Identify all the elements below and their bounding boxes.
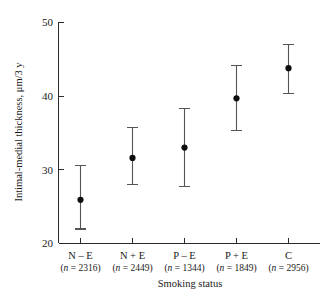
x-tick-sublabel-2: (n = 1344)	[164, 263, 204, 274]
n-value-1: = 2449)	[120, 263, 152, 274]
data-marker-3	[233, 95, 239, 101]
x-axis-title: Smoking status	[158, 278, 222, 289]
data-point-group-4	[283, 45, 294, 94]
x-tick-sublabel-1: (n = 2449)	[112, 263, 152, 274]
y-tick-label-50: 50	[42, 16, 54, 28]
n-value-0: = 2316)	[68, 263, 100, 274]
data-marker-0	[77, 197, 83, 203]
data-marker-2	[181, 145, 187, 151]
n-value-3: = 1849)	[224, 263, 256, 274]
x-tick-label-3: P + E	[225, 250, 248, 261]
chart-figure: 50 40 30 20	[0, 0, 328, 302]
y-tick-label-40: 40	[42, 90, 54, 102]
y-tick-marks	[59, 23, 65, 244]
n-value-4: = 2956)	[276, 263, 308, 274]
x-tick-label-2: P – E	[173, 250, 195, 261]
data-point-group-3	[231, 66, 242, 131]
data-point-group-0	[75, 165, 86, 229]
x-tick-sublabel-0: (n = 2316)	[60, 263, 100, 274]
x-tick-label-1: N + E	[120, 250, 145, 261]
y-axis-title: Intimal-medial thickness, μm/3 y	[13, 62, 24, 202]
x-tick-sublabel-3: (n = 1849)	[216, 263, 256, 274]
data-marker-4	[285, 65, 291, 71]
n-value-2: = 1344)	[172, 263, 204, 274]
errorbar-plot: 50 40 30 20	[0, 0, 328, 302]
y-tick-label-20: 20	[42, 237, 54, 249]
x-tick-marks	[81, 238, 289, 244]
x-tick-label-4: C	[285, 250, 292, 261]
data-marker-1	[129, 155, 135, 161]
y-tick-label-30: 30	[42, 164, 54, 176]
data-series-intimal-medial-thickness	[75, 45, 294, 230]
x-tick-label-0: N – E	[68, 250, 93, 261]
data-point-group-2	[179, 108, 190, 186]
x-tick-sublabel-4: (n = 2956)	[268, 263, 308, 274]
data-point-group-1	[127, 127, 138, 184]
